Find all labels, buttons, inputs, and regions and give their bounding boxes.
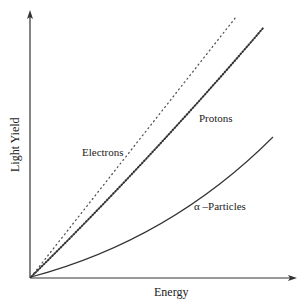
protons-label: Protons	[199, 112, 233, 124]
y-axis-label: Light Yield	[8, 117, 22, 172]
protons-curve	[31, 27, 264, 277]
light-yield-diagram: Electrons Protons α –Particles Energy Li…	[0, 0, 303, 304]
alpha-particles-label: α –Particles	[194, 200, 246, 212]
electrons-label: Electrons	[82, 146, 124, 158]
x-axis-label: Energy	[154, 285, 188, 299]
